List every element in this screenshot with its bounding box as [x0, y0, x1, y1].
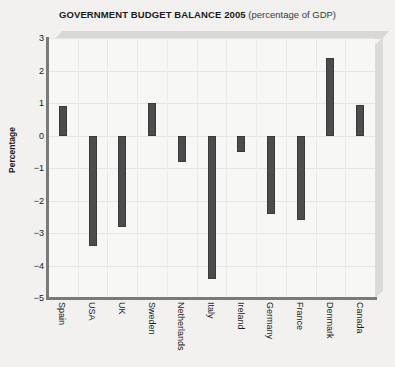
x-axis-line: [46, 297, 377, 300]
bar-denmark: [326, 58, 334, 136]
y-tick-label: −3: [2, 228, 44, 238]
chart-title: GOVERNMENT BUDGET BALANCE 2005 (percenta…: [0, 9, 395, 21]
y-axis-line: [46, 37, 49, 299]
frame-shadow-right: [375, 38, 383, 298]
plot-area: [48, 38, 375, 298]
gridline-v: [256, 38, 257, 298]
y-axis-title: Percentage: [7, 115, 17, 185]
bar-france: [297, 136, 305, 221]
y-tick-label: −5: [2, 293, 44, 303]
bar-germany: [267, 136, 275, 214]
bar-canada: [356, 105, 364, 136]
chart-title-subtitle: (percentage of GDP): [246, 9, 336, 20]
bar-netherlands: [178, 136, 186, 162]
gridline-v: [316, 38, 317, 298]
gridline-v: [197, 38, 198, 298]
gridline-v: [78, 38, 79, 298]
x-tick-label: Ireland: [236, 302, 246, 330]
y-tick-label: 3: [2, 33, 44, 43]
gridline-v: [137, 38, 138, 298]
x-tick-label: Canada: [355, 302, 365, 334]
x-tick-label: UK: [117, 302, 127, 315]
x-tick-label: Sweden: [147, 302, 157, 335]
gridline-v: [286, 38, 287, 298]
y-tick-label: 2: [2, 66, 44, 76]
bar-chart: GOVERNMENT BUDGET BALANCE 2005 (percenta…: [0, 0, 395, 367]
chart-title-main: GOVERNMENT BUDGET BALANCE 2005: [59, 9, 246, 20]
x-tick-label: Germany: [265, 302, 275, 339]
bar-ireland: [237, 136, 245, 152]
x-tick-label: Italy: [206, 302, 216, 319]
gridline-v: [345, 38, 346, 298]
x-tick-label: Spain: [57, 302, 67, 325]
y-tick-label: −2: [2, 196, 44, 206]
gridline-v: [107, 38, 108, 298]
gridline-v: [226, 38, 227, 298]
y-tick-label: −4: [2, 261, 44, 271]
x-tick-label: USA: [87, 302, 97, 321]
x-tick-label: Denmark: [325, 302, 335, 339]
bar-uk: [118, 136, 126, 227]
bar-sweden: [148, 103, 156, 136]
bar-italy: [208, 136, 216, 279]
x-tick-label: Netherlands: [176, 302, 186, 351]
gridline-h: [48, 38, 375, 39]
bar-usa: [89, 136, 97, 247]
gridline-v: [167, 38, 168, 298]
x-tick-label: France: [295, 302, 305, 330]
bar-spain: [59, 106, 67, 135]
y-tick-label: 1: [2, 98, 44, 108]
